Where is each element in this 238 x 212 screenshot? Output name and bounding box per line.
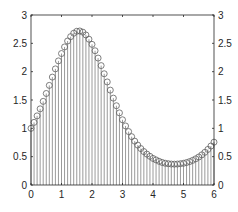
y-tick-label-right: 1.5 — [218, 95, 232, 106]
stem-plot: 0123456 00.511.522.53 00.511.522.53 — [0, 0, 238, 212]
x-tick-label: 5 — [181, 189, 187, 200]
x-tick-label: 1 — [59, 189, 65, 200]
y-axis-right-tick-labels: 00.511.522.53 — [218, 10, 232, 191]
y-tick-label-right: 2 — [218, 66, 224, 77]
y-tick-label-left: 1.5 — [13, 95, 27, 106]
x-tick-label: 6 — [211, 189, 217, 200]
y-axis-left-tick-labels: 00.511.522.53 — [13, 10, 27, 191]
y-tick-label-right: 0.5 — [218, 151, 232, 162]
y-tick-label-left: 1 — [21, 123, 27, 134]
x-tick-label: 4 — [150, 189, 156, 200]
x-tick-label: 3 — [120, 189, 126, 200]
x-tick-label: 2 — [89, 189, 95, 200]
y-tick-label-left: 2.5 — [13, 38, 27, 49]
y-tick-label-left: 2 — [21, 66, 27, 77]
y-tick-label-left: 0.5 — [13, 151, 27, 162]
y-tick-label-right: 1 — [218, 123, 224, 134]
x-tick-label: 0 — [28, 189, 34, 200]
y-tick-label-left: 3 — [21, 10, 27, 21]
y-tick-label-right: 2.5 — [218, 38, 232, 49]
y-tick-label-right: 0 — [218, 180, 224, 191]
y-tick-label-left: 0 — [21, 180, 27, 191]
x-axis-tick-labels: 0123456 — [28, 189, 217, 200]
y-tick-label-right: 3 — [218, 10, 224, 21]
